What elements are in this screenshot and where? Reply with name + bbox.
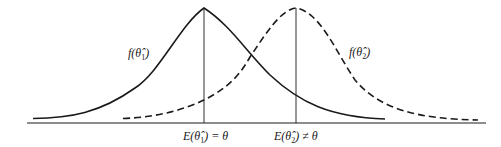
curve-label-theta1: f(θ̂1)	[128, 46, 149, 62]
curve-label-theta2: f(θ̂2)	[349, 45, 370, 61]
mean-label-theta2: E(θ̂2) ≠ θ	[273, 129, 318, 145]
mean-label-theta1: E(θ̂1) = θ	[182, 129, 228, 145]
density-curve-theta2	[123, 8, 478, 120]
estimator-bias-diagram: f(θ̂1) f(θ̂2) E(θ̂1) = θ E(θ̂2) ≠ θ	[0, 0, 501, 147]
density-curve-theta1	[33, 8, 385, 119]
